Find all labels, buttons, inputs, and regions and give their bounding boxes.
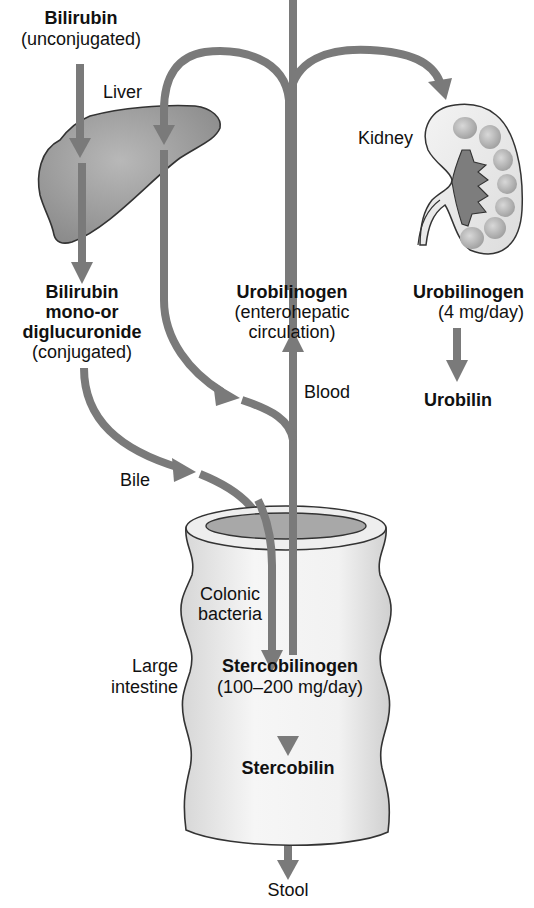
arrowhead-blood-branch (213, 382, 240, 406)
label-stercobilinogen-title: Stercobilinogen (202, 656, 378, 677)
label-bilirubin-unconjugated-title: Bilirubin (0, 8, 162, 29)
label-urobilin: Urobilin (410, 390, 506, 411)
label-bilirubin-conjugated-line2: mono-or (0, 302, 164, 323)
arrowhead-to-urobilin (446, 360, 468, 382)
label-urobilinogen-ehc-sub1: (enterohepatic (222, 302, 362, 323)
label-bile: Bile (120, 470, 150, 491)
label-liver: Liver (103, 82, 142, 103)
label-urobilinogen-kidney-title: Urobilinogen (390, 282, 524, 303)
bilirubin-metabolism-diagram: Bilirubin (unconjugated) Liver Kidney Bi… (0, 0, 534, 908)
arrowhead-to-conjugated (71, 262, 93, 284)
label-blood: Blood (304, 382, 350, 403)
label-urobilinogen-ehc-sub2: circulation) (222, 322, 362, 343)
arrowhead-to-stool (277, 860, 299, 880)
label-kidney: Kidney (358, 128, 413, 149)
label-bilirubin-unconjugated-sub: (unconjugated) (0, 29, 162, 50)
label-colonic-bacteria-2: bacteria (190, 604, 270, 625)
kidney-shape (418, 104, 522, 253)
label-colonic-bacteria-1: Colonic (190, 584, 270, 605)
label-large-intestine-1: Large (100, 656, 178, 677)
arrow-loop-to-kidney (289, 50, 440, 100)
arrowhead-to-kidney (428, 78, 452, 100)
label-urobilinogen-ehc-title: Urobilinogen (222, 282, 362, 303)
arrow-liver-return-to-blood (164, 150, 222, 392)
label-bilirubin-conjugated-line3: diglucuronide (0, 322, 164, 343)
arrow-branch-merge (242, 400, 293, 440)
liver-shape (39, 105, 221, 243)
label-stercobilinogen-sub: (100–200 mg/day) (202, 677, 378, 698)
label-stool: Stool (248, 880, 328, 901)
arrowhead-bile (172, 458, 196, 482)
arrow-bile-curve-1 (84, 368, 180, 468)
label-large-intestine-2: intestine (100, 677, 178, 698)
label-stercobilin: Stercobilin (222, 758, 354, 779)
label-urobilinogen-kidney-sub: (4 mg/day) (390, 302, 524, 323)
label-bilirubin-conjugated-sub: (conjugated) (0, 342, 164, 363)
label-bilirubin-conjugated-line1: Bilirubin (0, 282, 164, 303)
